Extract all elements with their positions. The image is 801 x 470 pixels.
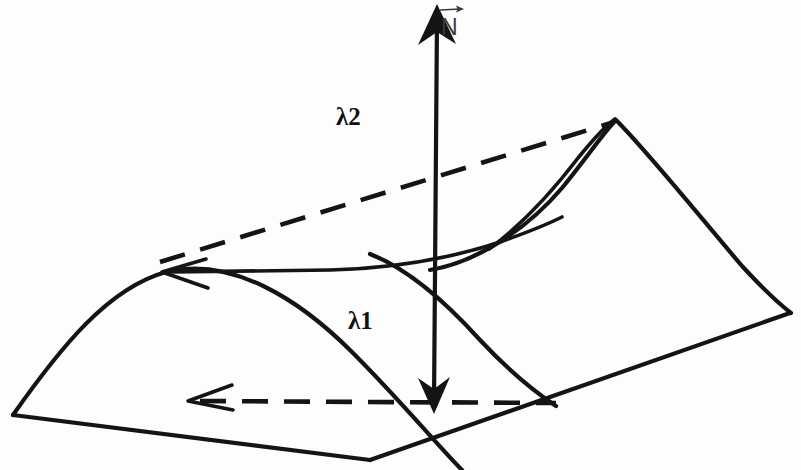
normal-vector-label: N xyxy=(441,16,458,39)
vector-n-glyph: N xyxy=(441,16,458,39)
normal-vector-letter: N xyxy=(441,14,458,40)
normal-axis-line xyxy=(434,18,437,404)
diagram-canvas: λ2 λ1 N xyxy=(0,0,801,470)
tangent-plane-far-edge-dashed-line xyxy=(160,122,614,262)
lambda2-label: λ2 xyxy=(336,104,361,129)
tangent-plane-near-edge-dashed-line xyxy=(200,401,556,403)
surface-left-arch-curve xyxy=(13,269,462,470)
baseline-arrow-left-icon xyxy=(188,385,233,410)
surface-near-cross-curve xyxy=(370,254,556,406)
surface-right-ridge-curve xyxy=(430,120,791,313)
base-left-edge-line xyxy=(13,415,370,460)
saddle-surface-drawing xyxy=(0,0,801,470)
lambda1-axis-line xyxy=(170,217,562,272)
surface-inner-fold-curve xyxy=(489,119,615,249)
right-arrow-overbar-icon xyxy=(439,3,465,15)
lambda1-label: λ1 xyxy=(348,308,373,333)
